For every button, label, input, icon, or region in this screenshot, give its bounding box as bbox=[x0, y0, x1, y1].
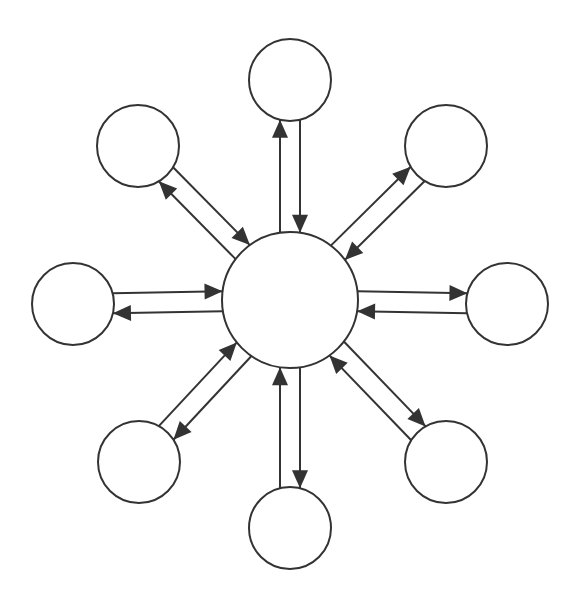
spoke-node-nw bbox=[97, 105, 179, 187]
arrowhead-icon bbox=[272, 367, 288, 385]
hub-spoke-diagram bbox=[0, 0, 579, 601]
spoke-node-se bbox=[405, 421, 487, 503]
nodes-layer bbox=[32, 39, 548, 569]
spoke-node-n bbox=[249, 39, 331, 121]
spoke-node-w bbox=[32, 263, 114, 345]
arrowhead-icon bbox=[292, 215, 308, 233]
spoke-node-ne bbox=[405, 105, 487, 187]
spoke-node-s bbox=[249, 487, 331, 569]
arrowhead-icon bbox=[204, 284, 222, 300]
arrowhead-icon bbox=[272, 120, 288, 138]
hub-node bbox=[222, 232, 358, 368]
arrowhead-icon bbox=[292, 470, 308, 488]
arrowhead-icon bbox=[449, 285, 467, 301]
arrowhead-icon bbox=[113, 305, 131, 321]
spoke-node-e bbox=[466, 263, 548, 345]
arrowhead-icon bbox=[357, 304, 375, 320]
spoke-node-sw bbox=[98, 421, 180, 503]
